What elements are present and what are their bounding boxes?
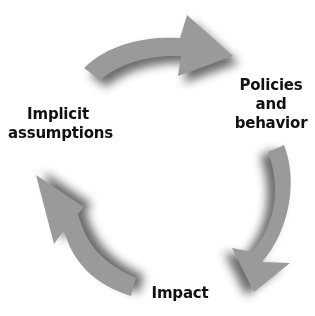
label-line: Implicit [8, 105, 108, 124]
arrow-impact-to-implicit [36, 175, 136, 296]
label-line: assumptions [8, 124, 108, 143]
label-line: behavior [226, 114, 315, 133]
cycle-arrows [0, 0, 315, 316]
label-line: Impact [150, 284, 210, 303]
node-label-impact: Impact [150, 284, 210, 303]
label-line: Policies [226, 76, 315, 95]
node-label-implicit-assumptions: Implicit assumptions [8, 105, 108, 143]
node-label-policies-and-behavior: Policies and behavior [226, 76, 315, 133]
label-line: and [226, 95, 315, 114]
